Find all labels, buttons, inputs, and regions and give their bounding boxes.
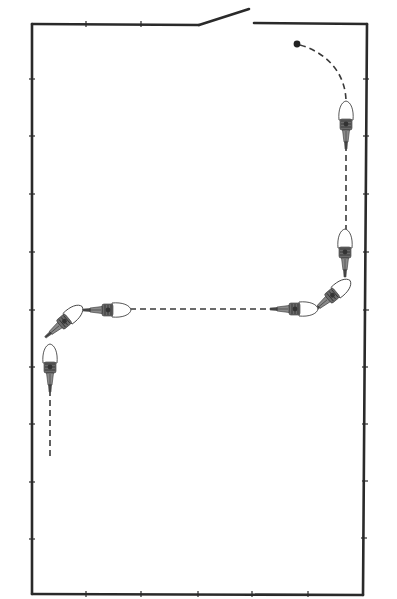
start-dot xyxy=(294,41,301,48)
horse-rider-icon xyxy=(338,229,352,277)
wall-top-right xyxy=(254,23,367,24)
horse-rider-icon xyxy=(43,344,57,392)
track xyxy=(50,41,346,456)
arena-svg xyxy=(0,0,397,599)
horse-rider-icon xyxy=(339,101,353,149)
wall-top-left xyxy=(32,24,199,25)
gate[interactable] xyxy=(199,9,249,25)
horse-rider-icon xyxy=(270,302,318,316)
horse-rider-icon xyxy=(41,301,87,343)
horses xyxy=(41,101,355,392)
arena-diagram xyxy=(0,0,397,599)
horse-rider-icon xyxy=(83,303,131,317)
track-curve-start xyxy=(300,45,346,102)
arena-walls xyxy=(32,9,367,595)
